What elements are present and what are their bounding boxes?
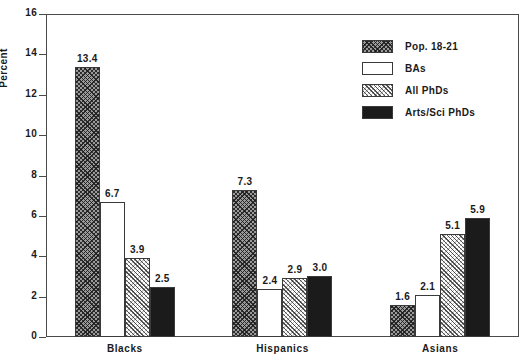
bar-group: 13.46.73.92.5: [46, 14, 204, 337]
y-axis-tick-label: 14: [25, 47, 37, 58]
bar[interactable]: [307, 276, 332, 337]
bar-value-label: 6.7: [105, 188, 120, 199]
bar[interactable]: [257, 289, 282, 337]
legend-swatch: [362, 106, 393, 119]
bar[interactable]: [440, 234, 465, 337]
bar-slot: 13.4: [75, 14, 100, 337]
legend-item[interactable]: All PhDs: [362, 81, 475, 100]
chart-legend: Pop. 18-21BAsAll PhDsArts/Sci PhDs: [362, 37, 475, 125]
x-axis-label: Asians: [422, 343, 458, 354]
bar[interactable]: [150, 287, 175, 337]
legend-label: All PhDs: [405, 85, 449, 96]
y-axis-tick-label: 2: [31, 290, 37, 301]
legend-item[interactable]: Arts/Sci PhDs: [362, 103, 475, 122]
bar-value-label: 3.9: [130, 244, 145, 255]
bar[interactable]: [465, 218, 490, 337]
bar-value-label: 5.1: [445, 220, 460, 231]
x-axis-label: Hispanics: [256, 343, 309, 354]
y-axis-tick-mark: [39, 297, 46, 298]
legend-item[interactable]: Pop. 18-21: [362, 37, 475, 56]
bar-value-label: 2.1: [420, 281, 435, 292]
y-axis-tick-mark: [39, 14, 46, 15]
y-axis-tick-mark: [39, 216, 46, 217]
y-axis-tick-mark: [39, 256, 46, 257]
x-axis-label: Blacks: [107, 343, 143, 354]
bar-value-label: 2.5: [155, 273, 170, 284]
bar-chart-figure: Percent 0246810121416 13.46.73.92.57.32.…: [0, 0, 528, 364]
bar[interactable]: [282, 278, 307, 337]
bar[interactable]: [390, 305, 415, 337]
bar-value-label: 13.4: [77, 53, 98, 64]
bar-value-label: 1.6: [395, 291, 410, 302]
y-axis-tick-mark: [39, 337, 46, 338]
y-axis-tick-label: 16: [25, 7, 37, 18]
bar-value-label: 7.3: [238, 176, 253, 187]
bar-value-label: 3.0: [313, 262, 328, 273]
legend-label: BAs: [405, 63, 426, 74]
bar[interactable]: [75, 67, 100, 338]
bar[interactable]: [232, 190, 257, 337]
bar-slot: 7.3: [232, 14, 257, 337]
bar-slot: 2.9: [282, 14, 307, 337]
bar[interactable]: [100, 202, 125, 337]
y-axis-tick-label: 6: [31, 209, 37, 220]
bar-slot: 2.4: [257, 14, 282, 337]
bar-slot: 3.0: [307, 14, 332, 337]
y-axis-tick-mark: [39, 176, 46, 177]
bar[interactable]: [125, 258, 150, 337]
y-axis-tick-mark: [39, 95, 46, 96]
bar-value-label: 2.9: [288, 264, 303, 275]
y-axis-tick-mark: [39, 135, 46, 136]
legend-swatch: [362, 84, 393, 97]
legend-swatch: [362, 62, 393, 75]
y-axis-tick-mark: [39, 54, 46, 55]
bar-slot: 2.5: [150, 14, 175, 337]
legend-label: Arts/Sci PhDs: [405, 107, 475, 118]
bar-group: 7.32.42.93.0: [204, 14, 362, 337]
bar-value-label: 5.9: [470, 204, 485, 215]
y-axis-tick-label: 0: [31, 330, 37, 341]
bar-slot: 3.9: [125, 14, 150, 337]
legend-item[interactable]: BAs: [362, 59, 475, 78]
y-axis-tick-label: 4: [31, 249, 37, 260]
bar-value-label: 2.4: [263, 275, 278, 286]
legend-label: Pop. 18-21: [405, 41, 458, 52]
bar-slot: 6.7: [100, 14, 125, 337]
y-axis-tick-label: 12: [25, 88, 37, 99]
legend-swatch: [362, 40, 393, 53]
y-axis-title: Percent: [0, 8, 9, 128]
y-axis-tick-label: 8: [31, 169, 37, 180]
bar[interactable]: [415, 295, 440, 337]
y-axis-tick-label: 10: [25, 128, 37, 139]
